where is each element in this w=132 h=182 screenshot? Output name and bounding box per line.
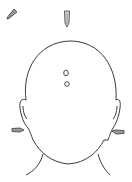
jaw-outline xyxy=(33,140,108,164)
neck-left xyxy=(26,154,43,175)
right-ear-probe-icon xyxy=(112,130,124,134)
left-ear-probe-icon xyxy=(12,128,24,132)
top-center-probe-icon xyxy=(65,11,70,27)
head-outline xyxy=(25,41,116,100)
scalp-lower-dot-icon xyxy=(65,82,70,87)
scalp-upper-dot-icon xyxy=(64,70,69,76)
neck-right xyxy=(98,154,110,175)
left-ear-inner xyxy=(23,106,27,119)
right-ear-inner xyxy=(113,106,117,119)
left-ear xyxy=(20,99,33,140)
top-left-probe-icon xyxy=(6,9,17,20)
head-diagram xyxy=(0,0,132,182)
